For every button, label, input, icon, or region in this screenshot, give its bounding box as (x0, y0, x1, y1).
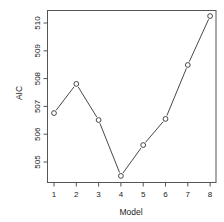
x-tick-label: 8 (208, 190, 213, 199)
y-tick-label: 506 (33, 127, 42, 141)
x-axis: 12345678 (52, 183, 213, 199)
data-point-marker (141, 143, 146, 148)
line-segment (167, 68, 187, 115)
x-axis-label: Model (119, 207, 142, 217)
y-tick-label: 508 (33, 71, 42, 85)
y-axis-label: AIC (14, 86, 24, 100)
x-tick-label: 2 (74, 190, 79, 199)
x-tick-label: 1 (52, 190, 57, 199)
x-tick-label: 7 (186, 190, 191, 199)
line-segment (123, 148, 141, 173)
aic-line-chart: 505506507508509510 12345678 Model AIC (0, 0, 224, 222)
line-segment (56, 87, 74, 110)
data-point-marker (208, 14, 213, 19)
x-tick-label: 5 (141, 190, 146, 199)
data-point-marker (163, 117, 168, 122)
data-point-marker (185, 63, 190, 68)
data-point-marker (96, 118, 101, 123)
data-point-marker (119, 174, 124, 179)
x-tick-label: 6 (163, 190, 168, 199)
y-tick-label: 507 (33, 99, 42, 113)
y-tick-label: 509 (33, 44, 42, 58)
y-tick-label: 510 (33, 16, 42, 30)
line-segment (78, 87, 97, 117)
y-axis: 505506507508509510 (33, 16, 47, 169)
line-segment (100, 123, 120, 172)
line-segment (146, 122, 164, 143)
y-tick-label: 505 (33, 155, 42, 169)
data-series (52, 14, 213, 179)
data-point-marker (74, 81, 79, 86)
line-segment (189, 19, 208, 61)
plot-frame (48, 11, 217, 183)
x-tick-label: 4 (119, 190, 124, 199)
data-point-marker (52, 111, 57, 116)
x-tick-label: 3 (96, 190, 101, 199)
